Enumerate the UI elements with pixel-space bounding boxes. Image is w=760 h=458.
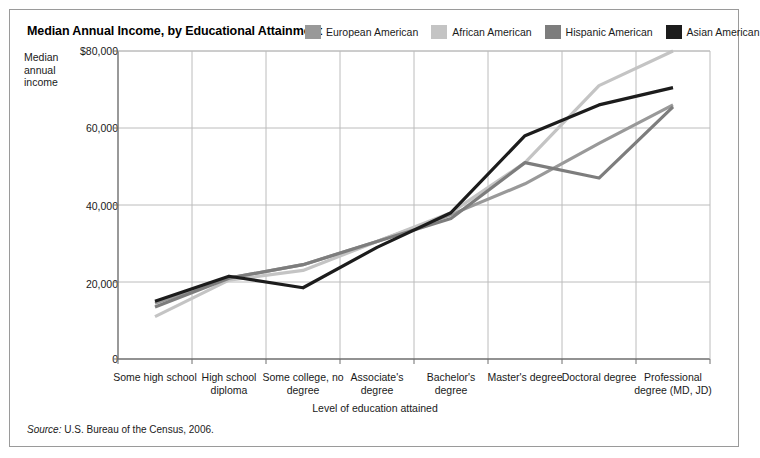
source-text: U.S. Bureau of the Census, 2006. — [61, 424, 213, 435]
x-tick-label: High school diploma — [187, 371, 271, 396]
x-tick-label: Doctoral degree — [557, 371, 641, 384]
x-tick-label: Bachelor's degree — [409, 371, 493, 396]
x-axis-tick-labels: Some high schoolHigh school diplomaSome … — [10, 10, 740, 448]
x-tick-label: Master's degree — [483, 371, 567, 384]
source-note: Source: U.S. Bureau of the Census, 2006. — [27, 424, 214, 435]
figure-panel: Median Annual Income, by Educational Att… — [9, 9, 739, 447]
x-tick-label: Some high school — [113, 371, 197, 384]
x-axis-title: Level of education attained — [10, 402, 740, 414]
x-tick-label: Professional degree (MD, JD) — [631, 371, 715, 396]
x-tick-label: Associate's degree — [335, 371, 419, 396]
x-tick-label: Some college, no degree — [261, 371, 345, 396]
source-keyword: Source: — [27, 424, 61, 435]
